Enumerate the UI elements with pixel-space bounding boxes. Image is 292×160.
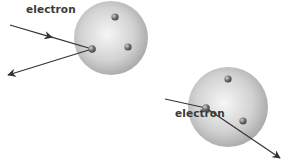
- outgoing-electron-arrow-1: [8, 49, 92, 75]
- particle-icon: [111, 13, 118, 20]
- particle-icon: [224, 75, 231, 82]
- atom-sphere-1: [74, 1, 148, 75]
- particle-icon: [239, 117, 246, 124]
- scattering-diagram: [0, 0, 292, 160]
- electron-label-2: electron: [175, 107, 225, 119]
- electron-label-1: electron: [26, 3, 76, 15]
- incoming-electron-arrow-1: [10, 25, 52, 37]
- particle-icon: [124, 43, 131, 50]
- particle-icon: [88, 45, 96, 53]
